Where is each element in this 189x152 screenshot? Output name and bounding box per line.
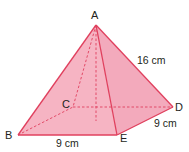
vertex-label-a: A	[91, 9, 99, 21]
measurement-label-ed: 9 cm	[154, 117, 177, 129]
vertex-label-d: D	[175, 101, 183, 113]
vertex-label-b: B	[5, 129, 12, 141]
measurement-label-be: 9 cm	[56, 137, 79, 149]
measurement-label-ad: 16 cm	[137, 54, 166, 66]
pyramid-diagram: A B C D E 16 cm 9 cm 9 cm	[0, 0, 189, 152]
vertex-label-c: C	[62, 98, 70, 110]
vertex-label-e: E	[120, 132, 127, 144]
